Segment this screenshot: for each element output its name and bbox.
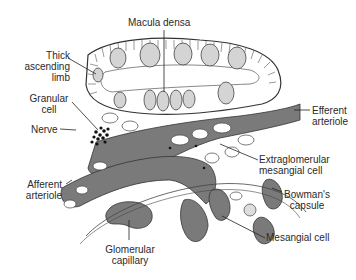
thick-ascending-limb-tubule (86, 38, 281, 114)
label-extraglomerular-mesangial-cell: Extraglomerular mesangial cell (259, 154, 330, 176)
label-macula-densa: Macula densa (128, 17, 190, 28)
label-granular-cell: Granular cell (26, 93, 72, 115)
label-efferent-arteriole: Efferent arteriole (312, 105, 348, 127)
label-mesangial-cell: Mesangial cell (266, 232, 329, 243)
label-bowmans-capsule: Bowman's capsule (282, 189, 332, 211)
label-thick-ascending-limb: Thick ascending limb (14, 50, 70, 83)
juxtaglomerular-diagram: Macula densa Thick ascending limb Granul… (0, 0, 356, 280)
label-afferent-arteriole: Afferent arteriole (10, 179, 62, 201)
label-glomerular-capillary: Glomerular capillary (100, 244, 160, 266)
label-nerve: Nerve (31, 124, 58, 135)
afferent-arteriole-vessel (61, 156, 216, 206)
